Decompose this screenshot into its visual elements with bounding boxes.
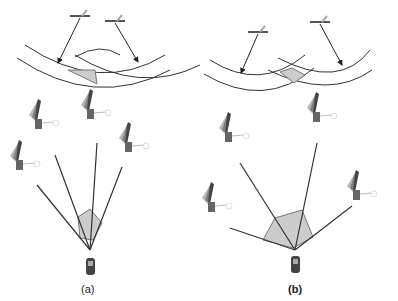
panel-b-satellite-geometry xyxy=(202,92,377,273)
panel-a-label: (a) xyxy=(81,283,94,295)
satellite-icon xyxy=(307,92,337,122)
satellite-icon xyxy=(119,122,149,152)
panel-a-uncertainty-region xyxy=(68,70,97,84)
satellite-icon xyxy=(347,170,377,200)
panel-a-range-arcs xyxy=(17,10,200,87)
satellite-icon xyxy=(310,16,330,22)
gps-geometry-diagram xyxy=(0,0,398,301)
satellite-icon xyxy=(202,182,232,212)
satellite-icon xyxy=(105,15,125,21)
satellite-icon xyxy=(248,26,268,32)
receiver-icon xyxy=(86,258,95,275)
satellite-icon xyxy=(81,89,111,119)
panel-b-range-arcs xyxy=(204,16,372,91)
satellite-icon xyxy=(219,112,249,142)
receiver-icon xyxy=(291,256,300,273)
panel-b-label: (b) xyxy=(288,283,302,295)
panel-a-satellite-geometry xyxy=(10,89,149,275)
satellite-icon xyxy=(10,140,40,170)
panel-b-uncertainty-region xyxy=(280,68,305,83)
satellite-icon xyxy=(29,99,59,129)
satellite-icon xyxy=(70,10,90,16)
